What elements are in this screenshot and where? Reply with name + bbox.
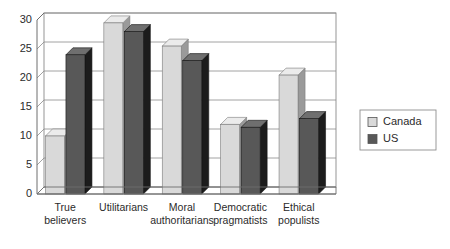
y-axis-tick-label: 25: [20, 42, 32, 54]
bar-front-face: [104, 23, 123, 194]
y-axis-tick: [37, 42, 44, 49]
bar-side-face: [143, 25, 150, 194]
x-axis-category-label: Democraticpragmatists: [213, 201, 267, 226]
x-axis-category-label: Utilitarians: [99, 201, 148, 213]
bar-front-face: [183, 61, 202, 194]
bar-side-face: [319, 112, 326, 194]
bar-side-face: [260, 120, 267, 194]
y-axis-tick-label: 20: [20, 71, 32, 83]
bar-us-5: [300, 112, 326, 194]
y-axis-tick: [37, 100, 44, 107]
y-axis-tick-labels: 051015202530: [20, 13, 32, 199]
bar-front-face: [66, 55, 85, 194]
y-axis-tick-label: 5: [26, 158, 32, 170]
legend-label: Canada: [383, 115, 422, 127]
bar-front-face: [279, 75, 298, 194]
bar-front-face: [45, 136, 64, 194]
us-swatch-icon: [368, 135, 377, 144]
y-axis-tick-label: 30: [20, 13, 32, 25]
y-axis-tick-label: 0: [26, 187, 32, 199]
bar-side-face: [202, 54, 209, 194]
bar-chart: 051015202530 TruebelieversUtilitariansMo…: [0, 0, 450, 249]
bar-us-1: [66, 48, 92, 194]
y-axis-tick-label: 15: [20, 100, 32, 112]
bars-group: [45, 16, 325, 194]
x-axis-category-label: Moralauthoritarians: [150, 201, 214, 226]
legend-label: US: [383, 132, 398, 144]
x-axis-category-label: Truebelievers: [44, 201, 86, 226]
bar-us-2: [124, 25, 150, 194]
axis-top-connector: [37, 13, 44, 20]
y-axis-tick-label: 10: [20, 129, 32, 141]
y-axis-tick: [37, 129, 44, 136]
bar-front-face: [221, 124, 240, 194]
bar-us-3: [183, 54, 209, 194]
x-axis-category-labels: TruebelieversUtilitariansMoralauthoritar…: [44, 201, 319, 226]
bar-front-face: [300, 119, 319, 194]
bar-side-face: [85, 48, 92, 194]
legend: CanadaUS: [360, 110, 436, 150]
chart-canvas: 051015202530 TruebelieversUtilitariansMo…: [0, 0, 450, 249]
x-axis-category-label: Ethicalpopulists: [278, 201, 319, 226]
bar-front-face: [162, 46, 181, 194]
y-axis-tick: [37, 71, 44, 78]
bar-us-4: [241, 120, 267, 194]
bar-front-face: [241, 127, 260, 194]
y-axis-tick: [37, 158, 44, 165]
canada-swatch-icon: [368, 118, 377, 127]
bar-front-face: [124, 32, 143, 194]
